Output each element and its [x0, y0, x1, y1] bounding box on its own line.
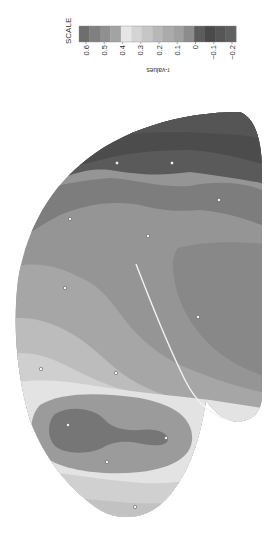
electrode-marker [105, 460, 108, 463]
contour-regions [0, 100, 275, 545]
electrode-marker [170, 161, 173, 164]
electrode-marker [146, 234, 149, 237]
electrode-marker [63, 286, 66, 289]
contour-map [0, 0, 275, 545]
electrode-marker [133, 505, 136, 508]
electrode-marker [114, 371, 117, 374]
electrode-marker [39, 367, 42, 370]
electrode-marker [115, 161, 118, 164]
electrode-marker [68, 217, 71, 220]
electrode-marker [66, 423, 69, 426]
electrode-marker [164, 436, 167, 439]
electrode-marker [196, 315, 199, 318]
electrode-marker [217, 198, 220, 201]
